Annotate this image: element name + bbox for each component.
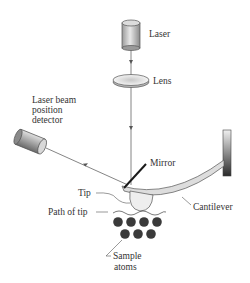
incident-beam xyxy=(129,50,133,185)
detector-label-line3: detector xyxy=(32,115,63,125)
lens-icon xyxy=(113,75,149,88)
detector-icon xyxy=(12,128,48,155)
tip-leader-line xyxy=(96,193,130,203)
sample-atoms xyxy=(113,217,162,239)
atom xyxy=(139,217,149,227)
detector-label-line1: Laser beam xyxy=(32,95,77,105)
cantilever-leader-line xyxy=(182,197,191,205)
atom xyxy=(146,229,156,239)
detector-label-line2: position xyxy=(32,105,63,115)
mirror-icon xyxy=(124,164,146,188)
afm-diagram: Laser Lens Laser beam position detector … xyxy=(0,0,250,283)
atom xyxy=(126,217,136,227)
atom xyxy=(120,229,130,239)
sample-label-line1: Sample xyxy=(113,251,142,261)
laser-label: Laser xyxy=(149,29,171,39)
sample-label-line2: atoms xyxy=(114,262,137,272)
lens-label: Lens xyxy=(153,76,172,86)
cantilever-label: Cantilever xyxy=(193,202,233,212)
cantilever-mount-icon xyxy=(223,130,231,176)
tip-path-line xyxy=(113,211,166,215)
path-of-tip-label: Path of tip xyxy=(48,207,88,217)
tip-label: Tip xyxy=(78,188,91,198)
laser-icon xyxy=(122,20,140,51)
atom xyxy=(152,217,162,227)
reflected-beam xyxy=(46,148,128,185)
atom xyxy=(133,229,143,239)
atom xyxy=(113,217,123,227)
mirror-label: Mirror xyxy=(150,158,176,168)
